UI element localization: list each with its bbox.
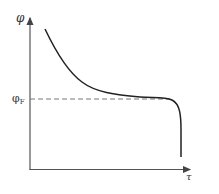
phi-f-subscript: F xyxy=(20,98,25,106)
phi-f-main: φ xyxy=(12,92,20,105)
x-axis-label: τ xyxy=(186,172,192,182)
y-axis-label: φ xyxy=(16,12,24,24)
phi-tau-plot xyxy=(0,0,219,194)
phi-f-label: φF xyxy=(12,93,25,106)
phi-curve xyxy=(45,29,181,157)
